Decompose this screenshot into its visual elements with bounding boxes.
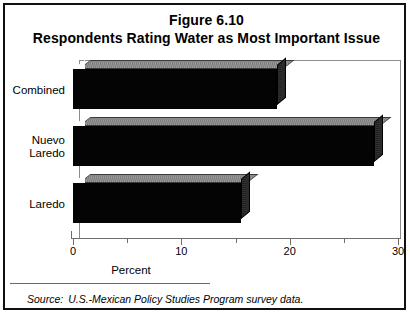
x-tick-label-0: 0: [70, 245, 76, 257]
category-label-combined: Combined: [13, 84, 65, 97]
bar-top-face: [79, 174, 258, 183]
x-tick-5: [127, 239, 128, 243]
bar-side-face: [241, 171, 250, 219]
category-label-laredo: Laredo: [29, 198, 65, 211]
bar-front-face: [73, 183, 241, 223]
x-axis-title-text: Percent: [111, 264, 151, 276]
figure-container: Figure 6.10 Respondents Rating Water as …: [0, 0, 410, 314]
x-tick-label-30: 30: [392, 245, 404, 257]
bar-side-face: [277, 57, 286, 105]
bar-front-face: [73, 126, 374, 166]
x-axis-title: Percent: [67, 264, 403, 276]
x-tick-15: [236, 239, 237, 243]
source-keyword: Source:: [27, 293, 63, 305]
x-tick-label-20: 20: [284, 245, 296, 257]
figure-border: Figure 6.10 Respondents Rating Water as …: [3, 3, 406, 310]
bar-side-face: [374, 114, 383, 162]
source-text: U.S.-Mexican Policy Studies Program surv…: [68, 293, 303, 305]
figure-number: Figure 6.10: [5, 12, 408, 29]
plot-area: 0102030: [67, 57, 403, 247]
bar-origin-wedge: [73, 117, 85, 126]
y-axis-line: [71, 231, 72, 239]
bar-top-face: [79, 117, 392, 126]
category-label-nuevo-laredo: Nuevo Laredo: [29, 134, 65, 160]
bar-origin-wedge: [73, 174, 85, 183]
bar-front-face: [73, 69, 277, 109]
x-tick-25: [344, 239, 345, 243]
source-divider: [10, 283, 210, 284]
bar-origin-wedge: [73, 60, 85, 69]
bar-top-face: [79, 60, 294, 69]
category-axis-labels: Combined Nuevo Laredo Laredo: [11, 57, 65, 247]
source-note: Source:U.S.-Mexican Policy Studies Progr…: [27, 293, 303, 305]
page-title: Respondents Rating Water as Most Importa…: [5, 29, 408, 47]
figure-title-block: Figure 6.10 Respondents Rating Water as …: [5, 12, 408, 47]
x-tick-label-10: 10: [175, 245, 187, 257]
